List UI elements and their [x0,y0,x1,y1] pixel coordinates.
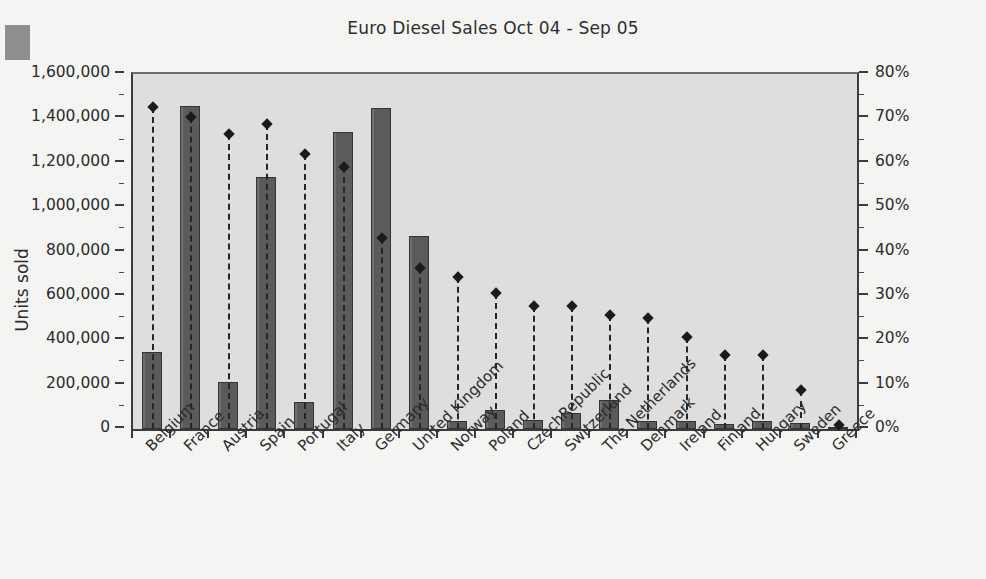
y-axis-left-tick-label: 0 [100,418,110,436]
y-axis-left-tick-label: 1,200,000 [31,152,110,170]
y-axis-left-minor-tick [119,360,124,361]
y-axis-left-minor-tick [119,183,124,184]
y-axis-right-tick-label: 60% [875,152,909,170]
y-axis-left-tick-label: 400,000 [46,329,110,347]
stem-portugal [304,154,306,429]
marker-the-netherlands [605,309,616,320]
y-axis-right-minor-tick [859,316,864,317]
y-axis-left-minor-tick [119,139,124,140]
marker-czechrepublic [528,300,539,311]
marker-denmark [643,312,654,323]
y-axis-right-tick-mark [859,293,868,295]
stem-belgium [152,107,154,429]
y-axis-right-tick-label: 50% [875,196,909,214]
y-axis-left-tick-mark [115,160,124,162]
chart-title: Euro Diesel Sales Oct 04 - Sep 05 [0,18,986,38]
y-axis-left-tick-mark [115,426,124,428]
stem-france [190,117,192,429]
y-axis-right-tick-label: 80% [875,63,909,81]
x-axis-tick [131,429,133,438]
marker-austria [224,128,235,139]
marker-ireland [681,331,692,342]
y-axis-left-tick-label: 1,000,000 [31,196,110,214]
y-axis-left-tick-mark [115,382,124,384]
stem-italy [343,167,345,429]
marker-portugal [300,148,311,159]
y-axis-right-minor-tick [859,227,864,228]
y-axis-left-tick-label: 200,000 [46,374,110,392]
y-axis-left-tick-label: 1,400,000 [31,107,110,125]
marker-norway [452,271,463,282]
stem-germany [381,238,383,429]
chart-figure: Euro Diesel Sales Oct 04 - Sep 05 Units … [0,0,986,579]
marker-hungary [757,349,768,360]
y-axis-right-tick-label: 20% [875,329,909,347]
y-axis-left-tick-mark [115,293,124,295]
y-axis-right-tick-label: 0% [875,418,900,436]
y-axis-right-minor-tick [859,360,864,361]
y-axis-right-tick-mark [859,337,868,339]
stem-spain [266,124,268,429]
y-axis-left-tick-label: 600,000 [46,285,110,303]
marker-switzerland [567,300,578,311]
marker-sweden [795,384,806,395]
y-axis-left-minor-tick [119,227,124,228]
y-axis-left-tick-mark [115,115,124,117]
marker-belgium [147,102,158,113]
y-axis-right-minor-tick [859,94,864,95]
y-axis-left-tick-label: 1,600,000 [31,63,110,81]
y-axis-right-minor-tick [859,183,864,184]
y-axis-left-minor-tick [119,316,124,317]
stem-austria [228,134,230,429]
x-axis-labels: BelgiumFranceAustriaSpainPortugalItalyGe… [0,438,986,558]
y-axis-left-tick-label: 800,000 [46,241,110,259]
y-axis-right-tick-mark [859,160,868,162]
y-axis-left-tick-mark [115,71,124,73]
y-axis-right-tick-mark [859,71,868,73]
y-axis-right-tick-mark [859,115,868,117]
y-axis-left-tick-mark [115,337,124,339]
marker-spain [262,118,273,129]
marker-finland [719,349,730,360]
y-axis-right-tick-label: 40% [875,241,909,259]
y-axis-left-tick-mark [115,204,124,206]
y-axis-right-tick-mark [859,382,868,384]
y-axis-left-minor-tick [119,272,124,273]
y-axis-left-minor-tick [119,405,124,406]
y-axis-right-tick-label: 70% [875,107,909,125]
y-axis-right-minor-tick [859,272,864,273]
y-axis-right-tick-label: 10% [875,374,909,392]
y-axis-right-tick-label: 30% [875,285,909,303]
y-axis-left-tick-mark [115,249,124,251]
y-axis-left-minor-tick [119,94,124,95]
marker-poland [490,287,501,298]
y-axis-right-minor-tick [859,139,864,140]
stem-czechrepublic [533,306,535,429]
y-axis-right-tick-mark [859,204,868,206]
y-axis-right-tick-mark [859,249,868,251]
